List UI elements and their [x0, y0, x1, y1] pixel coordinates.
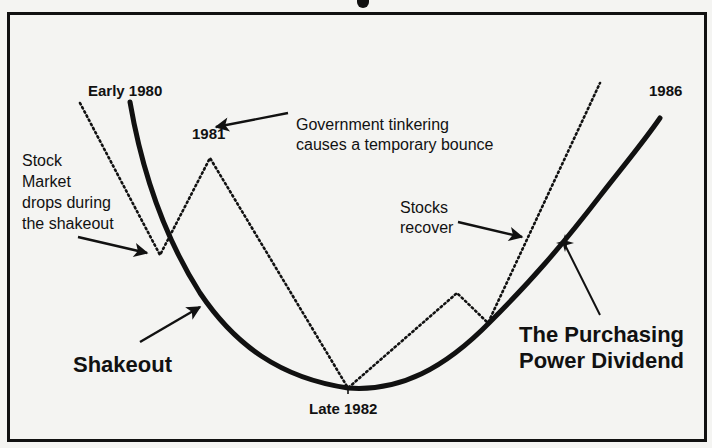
label-early-1980: Early 1980 — [88, 82, 162, 99]
label-stocks-recover-line1: Stocks — [400, 199, 448, 217]
label-stock-line2: Market — [22, 173, 71, 191]
arrow-shakeout — [140, 307, 200, 342]
label-1981: 1981 — [192, 125, 225, 142]
label-1986: 1986 — [649, 82, 682, 99]
label-stocks-recover-line2: recover — [400, 219, 453, 237]
label-ppd-line2: Power Dividend — [519, 348, 684, 373]
label-stock-line3: drops during — [22, 194, 111, 212]
label-ppd-line1: The Purchasing — [519, 322, 684, 347]
arrow-stocks-recover — [458, 222, 522, 237]
pointer-purchasing-power — [565, 245, 600, 315]
label-stock-line1: Stock — [22, 152, 62, 170]
label-late-1982: Late 1982 — [309, 400, 377, 417]
arrow-stock-drop — [78, 237, 147, 253]
arrow-1981 — [216, 113, 288, 127]
label-shakeout: Shakeout — [73, 352, 172, 377]
label-government-line2: causes a temporary bounce — [296, 136, 493, 154]
label-government-line1: Government tinkering — [296, 116, 449, 134]
label-stock-line4: the shakeout — [22, 215, 114, 233]
